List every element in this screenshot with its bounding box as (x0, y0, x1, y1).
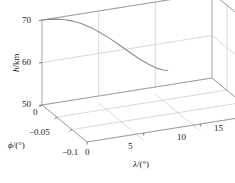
lambda-tick-5: 5 (128, 142, 133, 151)
lambda-axis-back (42, 78, 212, 105)
h-tick-60: 60 (22, 58, 31, 67)
floor-grid (42, 78, 235, 142)
lambda-tick-0: 0 (85, 148, 90, 157)
lambda-tick-10: 10 (177, 133, 186, 142)
h-axis-label-unit: /km (11, 53, 21, 67)
phi-tick-minus01: −0.1 (62, 148, 78, 157)
lambda-axis-front (87, 115, 235, 142)
lambda-tick-15: 15 (214, 124, 223, 133)
h-axis-label-main: h (11, 68, 21, 73)
phi-tick-0: 0 (33, 108, 38, 117)
plot-canvas (0, 0, 235, 183)
phi-axis-label: ϕ/(°) (8, 141, 25, 150)
lambda-axis-label: λ/(°) (133, 160, 149, 169)
trajectory-curve (42, 19, 168, 70)
top-right-edge (212, 0, 235, 30)
phi-axis-label-unit: /(°) (13, 140, 25, 150)
floor-right-edge (212, 78, 235, 115)
h-tick-50: 50 (22, 100, 31, 109)
lambda-axis-label-unit: /(°) (137, 159, 149, 169)
h-axis-label: h/km (12, 53, 21, 72)
h-tick-70: 70 (22, 16, 31, 25)
phi-tick-minus005: −0.05 (29, 128, 50, 137)
back-top-edge (42, 0, 212, 20)
tick-marks (39, 20, 235, 145)
